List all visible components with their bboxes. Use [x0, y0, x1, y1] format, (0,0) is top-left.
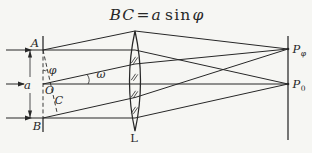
ray-a-diffracted	[43, 31, 135, 50]
p-upper-sub: φ	[301, 49, 307, 58]
omega-angle-label: ω	[97, 68, 106, 81]
p-upper-base: P	[292, 42, 301, 56]
p-lower-sub: 0	[301, 84, 306, 93]
rays-right	[135, 31, 288, 118]
arrowhead-bottom-icon	[25, 116, 32, 121]
dimension-arrow-down-icon	[28, 111, 32, 118]
lens-outline	[130, 31, 141, 131]
phi-angle-label: φ	[49, 64, 57, 77]
ray-a-straight-refracted	[135, 50, 288, 84]
screen-point-upper-dot	[287, 48, 290, 51]
focal-screen: Pφ P0	[287, 36, 307, 140]
formula-coef: a	[152, 6, 162, 24]
slit-width-label: a	[24, 78, 31, 92]
formula-title: BC=asinφ	[108, 6, 204, 24]
lens-label: L	[130, 131, 138, 145]
formula-func: sin	[165, 6, 192, 24]
lens-hatching	[131, 57, 138, 114]
screen-point-lower-label: P0	[292, 77, 306, 93]
screen-point-upper-label: Pφ	[292, 42, 307, 58]
lens-hatch-icon	[131, 57, 138, 64]
screen-point-lower-dot	[287, 83, 290, 86]
formula-angle: φ	[193, 6, 205, 24]
diffraction-figure: BC=asinφ a φ ω	[0, 0, 312, 153]
point-o-label: O	[45, 84, 54, 97]
p-lower-base: P	[292, 77, 301, 91]
lens: L	[130, 31, 141, 145]
formula-lhs: BC	[108, 6, 135, 24]
point-b-label: B	[32, 119, 41, 133]
ray-b-straight-refracted	[135, 84, 288, 118]
point-c-label: C	[55, 94, 64, 107]
rays-left	[43, 31, 288, 118]
ray-a-diffracted-refracted	[135, 31, 288, 49]
formula-equals: =	[136, 6, 150, 24]
point-a-label: A	[30, 36, 39, 50]
figure-canvas: BC=asinφ a φ ω	[0, 0, 312, 153]
slit-width-dimension: a	[24, 50, 32, 118]
omega-angle-arc	[87, 75, 89, 84]
lens-hatch-icon	[131, 74, 138, 81]
phi-angle-arc	[43, 70, 47, 71]
dimension-arrow-up-icon	[28, 51, 32, 58]
